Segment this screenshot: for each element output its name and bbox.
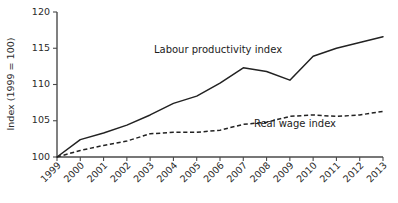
- x-tick-label-2001: 2001: [85, 160, 110, 185]
- x-tick-label-2005: 2005: [178, 160, 203, 185]
- chart-container: 100105110115120 199920002001200220032004…: [0, 0, 398, 203]
- x-tick-label-1999: 1999: [38, 160, 63, 185]
- annotation-labour-productivity: Labour productivity index: [154, 44, 282, 55]
- y-tick-label-105: 105: [32, 114, 50, 125]
- x-tick-label-2006: 2006: [201, 160, 226, 185]
- y-tick-label-120: 120: [32, 6, 50, 17]
- x-tick-label-2007: 2007: [224, 160, 249, 185]
- y-axis-title: Index (1999 = 100): [5, 38, 16, 131]
- x-tick-label-2013: 2013: [364, 160, 389, 185]
- x-tick-label-2010: 2010: [294, 160, 319, 185]
- y-tick-label-115: 115: [32, 42, 50, 53]
- x-tick-label-2008: 2008: [248, 160, 273, 185]
- x-tick-label-2009: 2009: [271, 160, 296, 185]
- annotation-real-wage: Real wage index: [254, 118, 336, 129]
- line-chart: 100105110115120 199920002001200220032004…: [0, 0, 398, 203]
- y-tick-label-100: 100: [32, 151, 50, 162]
- y-tick-label-110: 110: [32, 78, 50, 89]
- x-tick-label-2004: 2004: [154, 160, 179, 185]
- y-axis: 100105110115120: [32, 6, 57, 162]
- x-axis: 1999200020012002200320042005200620072008…: [38, 157, 389, 185]
- x-tick-label-2003: 2003: [131, 160, 156, 185]
- x-tick-label-2012: 2012: [341, 160, 366, 185]
- x-tick-label-2011: 2011: [317, 160, 342, 185]
- x-tick-label-2000: 2000: [61, 160, 86, 185]
- x-tick-label-2002: 2002: [108, 160, 133, 185]
- series-annotations: Labour productivity indexReal wage index: [154, 44, 336, 129]
